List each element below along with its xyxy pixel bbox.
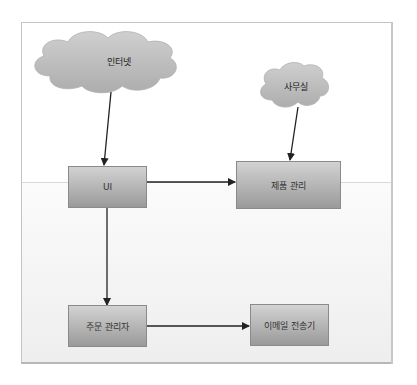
node-product-management: 제품 관리 — [236, 161, 341, 209]
diagram-canvas — [0, 0, 417, 385]
cloud-internet-label: 인터넷 — [107, 55, 131, 68]
cloud-internet — [35, 32, 177, 93]
node-order-manager-label: 주문 관리자 — [86, 320, 129, 333]
arrow-office-to-product — [290, 107, 298, 160]
cloud-office-label: 사무실 — [284, 80, 308, 93]
arrow-internet-to-ui — [104, 92, 111, 165]
node-product-management-label: 제품 관리 — [271, 179, 306, 192]
node-email-sender-label: 이메일 전송기 — [264, 319, 315, 332]
node-order-manager: 주문 관리자 — [68, 305, 147, 347]
node-email-sender: 이메일 전송기 — [250, 304, 329, 346]
node-ui: UI — [68, 166, 147, 208]
node-ui-label: UI — [103, 182, 112, 192]
